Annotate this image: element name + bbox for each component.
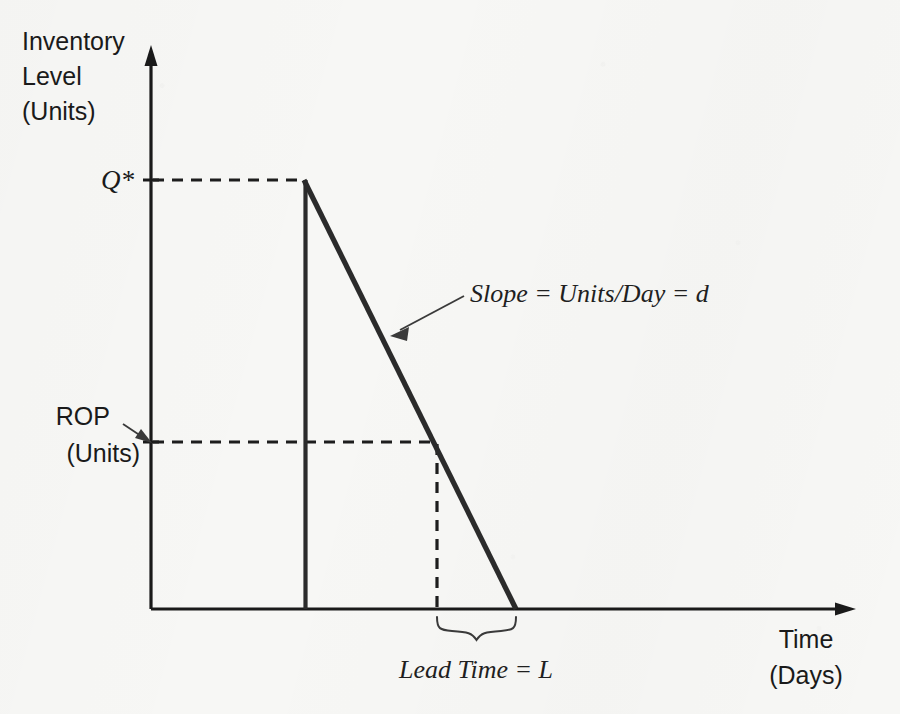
text-labels-group: Inventory Level (Units) Q* ROP (Units) S… [22, 27, 843, 689]
y-axis-label-line1: Inventory [22, 27, 125, 55]
lead-time-brace [437, 617, 516, 640]
x-axis-label-line2: (Days) [769, 661, 843, 689]
lead-time-annotation-label: Lead Time = L [398, 655, 553, 684]
y-axis-label-line3: (Units) [22, 97, 96, 125]
inventory-chart-svg: Inventory Level (Units) Q* ROP (Units) S… [0, 0, 900, 714]
slope-leader-arrowhead [390, 327, 409, 341]
order-quantity-label: Q* [101, 165, 134, 195]
axes-group [145, 45, 857, 616]
lead-time-brace-path [437, 617, 516, 640]
slope-annotation-label: Slope = Units/Day = d [470, 279, 710, 308]
x-axis-arrowhead [835, 603, 856, 616]
inventory-profile-group [304, 180, 516, 609]
slope-leader-line [400, 296, 464, 330]
demand-depletion-slope [304, 180, 516, 609]
inventory-diagram-figure: Inventory Level (Units) Q* ROP (Units) S… [0, 0, 900, 714]
y-axis-label-line2: Level [22, 62, 82, 90]
slope-annotation-leader [390, 296, 464, 341]
x-axis-label-line1: Time [779, 625, 834, 653]
reorder-point-label-line1: ROP [56, 402, 110, 430]
y-axis-arrowhead [145, 45, 158, 66]
reorder-point-label-line2: (Units) [66, 439, 140, 467]
guide-lines-group [153, 180, 437, 607]
